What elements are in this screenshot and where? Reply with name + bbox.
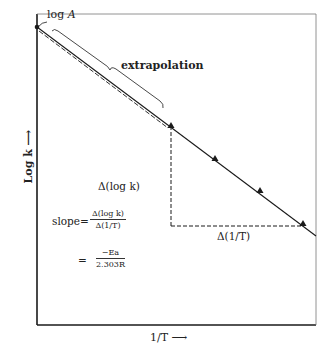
- data-points: [168, 122, 307, 226]
- ea-numerator: −Ea: [96, 248, 125, 259]
- activation-energy-fraction: −Ea 2.303R: [96, 248, 125, 269]
- equals-sign: =: [78, 254, 87, 266]
- slope-numerator: Δ(log k): [90, 209, 126, 220]
- log-a-var: A: [68, 8, 76, 21]
- ea-denominator: 2.303R: [96, 259, 125, 269]
- intercept-point: [35, 25, 40, 30]
- extrapolation-label: extrapolation: [121, 59, 204, 72]
- log-a-label: log A: [47, 8, 76, 21]
- x-axis-label: 1/T ⟶: [150, 331, 187, 344]
- y-axis-label: Log k ⟶: [22, 127, 35, 187]
- delta-log-k-label: Δ(log k): [98, 180, 140, 192]
- data-point-3: [257, 187, 264, 193]
- data-point-4: [300, 220, 307, 226]
- arrhenius-plot: [0, 0, 325, 351]
- log-a-prefix: log: [47, 8, 68, 21]
- extrapolation-line: [39, 31, 168, 128]
- slope-label: slope=: [52, 215, 89, 227]
- delta-inv-t-label: Δ(1/T): [217, 230, 250, 242]
- slope-denominator: Δ(1/T): [90, 220, 126, 230]
- slope-fraction: Δ(log k) Δ(1/T): [90, 209, 126, 230]
- intercept-leader: [38, 22, 47, 27]
